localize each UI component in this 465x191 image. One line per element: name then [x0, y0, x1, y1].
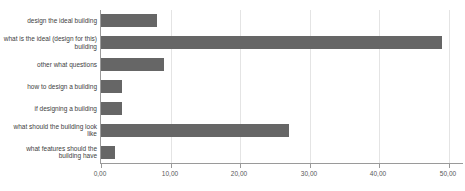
x-axis-tick: [310, 164, 311, 168]
bar: [101, 124, 289, 137]
bar: [101, 146, 115, 159]
x-axis-tick-label: 10,00: [148, 170, 192, 178]
x-axis-tick-label: 20,00: [217, 170, 261, 178]
gridline: [240, 10, 241, 163]
plot-area: [100, 10, 463, 164]
x-axis-tick: [379, 164, 380, 168]
category-label: how to design a building: [2, 76, 97, 98]
x-axis-tick: [449, 164, 450, 168]
category-label: other what questions: [2, 54, 97, 76]
bar: [101, 58, 164, 71]
category-label: what features should the building have: [2, 141, 97, 163]
x-axis-tick: [240, 164, 241, 168]
gridline: [310, 10, 311, 163]
x-axis-tick-label: 0,00: [78, 170, 122, 178]
x-axis-tick: [171, 164, 172, 168]
category-label: design the ideal building: [2, 10, 97, 32]
category-label: what should the building look like: [2, 119, 97, 141]
bar: [101, 14, 157, 27]
x-axis-tick: [101, 164, 102, 168]
bar: [101, 102, 122, 115]
category-label: if designing a building: [2, 97, 97, 119]
gridline: [379, 10, 380, 163]
x-axis-tick-label: 50,00: [426, 170, 465, 178]
bar: [101, 36, 442, 49]
horizontal-bar-chart: 0,0010,0020,0030,0040,0050,00design the …: [0, 0, 465, 191]
x-axis-tick-label: 40,00: [356, 170, 400, 178]
bar: [101, 80, 122, 93]
gridline: [171, 10, 172, 163]
category-label: what is the ideal (design for this) buil…: [2, 32, 97, 54]
x-axis-tick-label: 30,00: [287, 170, 331, 178]
gridline: [449, 10, 450, 163]
